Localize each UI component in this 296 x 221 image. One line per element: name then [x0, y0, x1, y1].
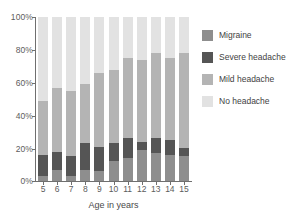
bar-segment-severe [80, 143, 90, 169]
stacked-bar-chart: 100% 80% 60% 40% 20% 0% 5678910111213141… [0, 0, 296, 221]
bar-segment-mild [38, 101, 48, 155]
bar-segment-mild [80, 84, 90, 143]
bar-segment-none [38, 17, 48, 101]
bar-segment-mild [137, 60, 147, 142]
bar-segment-none [123, 17, 133, 58]
bar-segment-mild [109, 70, 119, 144]
bar-segment-migraine [94, 171, 104, 181]
bar-segment-none [179, 17, 189, 53]
bar-segment-migraine [38, 176, 48, 181]
bar-segment-severe [179, 148, 189, 156]
legend-swatch-icon [202, 74, 213, 85]
legend-item-migraine: Migraine [202, 26, 294, 44]
bar-segment-none [151, 17, 161, 53]
bar-age-13 [151, 17, 161, 181]
y-tick-label: 0% [1, 177, 33, 186]
bar-segment-migraine [151, 153, 161, 181]
bar-segment-mild [165, 58, 175, 140]
bar-age-7 [66, 17, 76, 181]
bar-age-14 [165, 17, 175, 181]
bar-segment-none [165, 17, 175, 58]
bar-segment-migraine [165, 155, 175, 181]
bar-segment-severe [165, 140, 175, 155]
bar-segment-none [94, 17, 104, 73]
x-tick-label: 15 [174, 184, 194, 194]
bar-age-11 [123, 17, 133, 181]
bar-age-6 [52, 17, 62, 181]
bar-segment-none [137, 17, 147, 60]
bar-segment-mild [179, 53, 189, 148]
bar-age-10 [109, 17, 119, 181]
bar-segment-severe [52, 152, 62, 170]
bar-age-5 [38, 17, 48, 181]
y-tick-label: 60% [1, 79, 33, 88]
legend-swatch-icon [202, 30, 213, 41]
legend-label: No headache [219, 96, 270, 106]
bar-segment-mild [52, 88, 62, 152]
legend-swatch-icon [202, 96, 213, 107]
chart-legend: Migraine Severe headache Mild headache N… [202, 26, 294, 114]
bar-segment-migraine [66, 176, 76, 181]
bar-segment-migraine [52, 170, 62, 181]
bar-segment-severe [151, 138, 161, 153]
bar-segment-severe [66, 156, 76, 176]
y-tick-label: 100% [1, 13, 33, 22]
bar-segment-severe [38, 155, 48, 176]
bar-segment-migraine [137, 150, 147, 181]
bar-segment-severe [109, 143, 119, 161]
legend-label: Mild headache [219, 74, 274, 84]
x-axis-title: Age in years [36, 200, 191, 210]
y-tick-label: 20% [1, 145, 33, 154]
bar-segment-migraine [109, 161, 119, 181]
bar-segment-severe [137, 142, 147, 150]
bar-segment-migraine [80, 170, 90, 181]
y-tick-label: 40% [1, 112, 33, 121]
bar-segment-none [80, 17, 90, 84]
legend-label: Severe headache [219, 52, 286, 62]
bar-segment-none [52, 17, 62, 88]
bar-segment-none [109, 17, 119, 69]
bar-segment-none [66, 17, 76, 91]
bar-segment-mild [94, 73, 104, 147]
legend-item-no-headache: No headache [202, 92, 294, 110]
bar-segment-mild [66, 91, 76, 157]
bar-segment-migraine [179, 156, 189, 181]
bar-segment-severe [123, 138, 133, 158]
bar-segment-migraine [123, 158, 133, 181]
y-tick-label: 80% [1, 46, 33, 55]
bar-segment-mild [151, 53, 161, 138]
bar-segment-mild [123, 58, 133, 138]
legend-swatch-icon [202, 52, 213, 63]
bar-age-12 [137, 17, 147, 181]
legend-item-severe-headache: Severe headache [202, 48, 294, 66]
bar-segment-severe [94, 147, 104, 172]
bar-age-9 [94, 17, 104, 181]
legend-label: Migraine [219, 30, 252, 40]
bar-age-15 [179, 17, 189, 181]
plot-area [36, 17, 191, 181]
bar-age-8 [80, 17, 90, 181]
legend-item-mild-headache: Mild headache [202, 70, 294, 88]
